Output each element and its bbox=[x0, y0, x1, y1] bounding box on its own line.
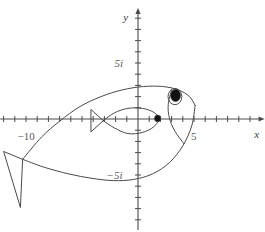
y-tick-label-neg5i: −5i bbox=[106, 169, 122, 181]
y-tick-label-5i: 5i bbox=[114, 57, 123, 69]
y-axis-label: y bbox=[123, 11, 128, 23]
inner-fish-body-lower bbox=[103, 118, 160, 133]
eye-pupil bbox=[170, 89, 180, 101]
curves-group bbox=[4, 86, 196, 207]
x-axis-label: x bbox=[254, 128, 259, 140]
plot-canvas bbox=[0, 0, 265, 232]
x-axis-arrowhead bbox=[259, 116, 265, 121]
x-tick-label-neg10: −10 bbox=[18, 130, 35, 142]
axes-group bbox=[0, 8, 264, 230]
inner-fish-eye bbox=[154, 115, 160, 122]
y-axis-arrowhead bbox=[135, 8, 140, 14]
x-tick-label-5: 5 bbox=[191, 130, 197, 142]
complex-plane-fish-figure: x y −10 5 5i −5i bbox=[0, 0, 265, 232]
outer-fish-tail bbox=[4, 151, 23, 207]
